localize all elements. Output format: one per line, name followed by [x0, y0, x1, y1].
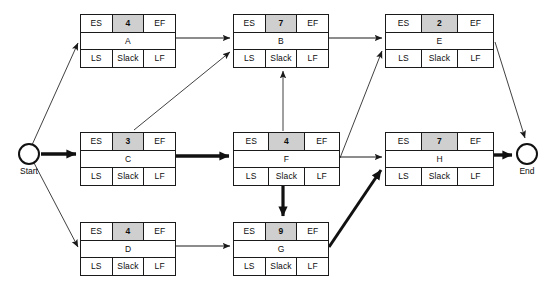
node-g-row-early: ES 9 EF: [234, 223, 328, 240]
node-h-lf: LF: [458, 168, 493, 185]
edge-f-e: [340, 51, 382, 158]
node-f-row-name: F: [234, 150, 339, 169]
node-c-duration: 3: [112, 133, 145, 150]
node-d-row-late: LS Slack LF: [81, 258, 175, 275]
node-c-ef: EF: [144, 133, 175, 150]
node-h-slack: Slack: [421, 168, 458, 185]
node-b-ls: LS: [234, 50, 265, 67]
node-d-lf: LF: [144, 258, 175, 275]
node-a-duration: 4: [112, 15, 145, 32]
node-b-name: B: [234, 33, 328, 50]
node-a-row-late: LS Slack LF: [81, 50, 175, 67]
node-d-row-name: D: [81, 240, 175, 259]
activity-node-g[interactable]: ES 9 EF G LS Slack LF: [233, 222, 329, 276]
node-g-duration: 9: [265, 223, 298, 240]
node-e-duration: 2: [421, 15, 458, 32]
node-h-row-late: LS Slack LF: [386, 168, 493, 185]
start-node[interactable]: Start: [18, 143, 40, 165]
node-g-row-late: LS Slack LF: [234, 258, 328, 275]
activity-node-b[interactable]: ES 7 EF B LS Slack LF: [233, 14, 329, 68]
node-b-slack: Slack: [265, 50, 298, 67]
end-node[interactable]: End: [516, 143, 538, 165]
node-c-row-name: C: [81, 150, 175, 169]
end-label: End: [519, 166, 534, 176]
node-b-ef: EF: [297, 15, 328, 32]
node-d-duration: 4: [112, 223, 145, 240]
node-e-lf: LF: [458, 50, 493, 67]
node-c-row-early: ES 3 EF: [81, 133, 175, 150]
node-f-row-late: LS Slack LF: [234, 168, 339, 185]
node-e-ef: EF: [458, 15, 493, 32]
node-g-ls: LS: [234, 258, 265, 275]
node-g-slack: Slack: [265, 258, 298, 275]
start-label: Start: [20, 166, 38, 176]
node-a-slack: Slack: [112, 50, 145, 67]
node-e-es: ES: [386, 15, 421, 32]
node-e-slack: Slack: [421, 50, 458, 67]
edge-e-end: [495, 42, 525, 138]
node-g-es: ES: [234, 223, 265, 240]
node-f-es: ES: [234, 133, 268, 150]
node-f-ef: EF: [305, 133, 339, 150]
node-b-row-late: LS Slack LF: [234, 50, 328, 67]
node-c-slack: Slack: [112, 168, 145, 185]
node-d-es: ES: [81, 223, 112, 240]
node-d-row-early: ES 4 EF: [81, 223, 175, 240]
node-f-row-early: ES 4 EF: [234, 133, 339, 150]
node-g-ef: EF: [297, 223, 328, 240]
node-f-slack: Slack: [268, 168, 304, 185]
node-g-row-name: G: [234, 240, 328, 259]
node-c-ls: LS: [81, 168, 112, 185]
node-e-row-name: E: [386, 32, 493, 51]
activity-node-e[interactable]: ES 2 EF E LS Slack LF: [385, 14, 494, 68]
activity-node-d[interactable]: ES 4 EF D LS Slack LF: [80, 222, 176, 276]
activity-node-h[interactable]: ES 7 EF H LS Slack LF: [385, 132, 494, 186]
node-c-lf: LF: [144, 168, 175, 185]
node-h-row-early: ES 7 EF: [386, 133, 493, 150]
node-e-row-late: LS Slack LF: [386, 50, 493, 67]
node-h-duration: 7: [421, 133, 458, 150]
node-a-lf: LF: [144, 50, 175, 67]
node-h-name: H: [386, 151, 493, 168]
node-a-ls: LS: [81, 50, 112, 67]
node-a-row-early: ES 4 EF: [81, 15, 175, 32]
activity-node-f[interactable]: ES 4 EF F LS Slack LF: [233, 132, 340, 186]
node-d-name: D: [81, 241, 175, 258]
activity-node-c[interactable]: ES 3 EF C LS Slack LF: [80, 132, 176, 186]
node-g-name: G: [234, 241, 328, 258]
node-e-ls: LS: [386, 50, 421, 67]
end-circle-icon: [516, 143, 538, 165]
activity-node-a[interactable]: ES 4 EF A LS Slack LF: [80, 14, 176, 68]
node-d-slack: Slack: [112, 258, 145, 275]
node-b-es: ES: [234, 15, 265, 32]
node-f-duration: 4: [268, 133, 304, 150]
node-b-row-early: ES 7 EF: [234, 15, 328, 32]
node-a-name: A: [81, 33, 175, 50]
node-c-name: C: [81, 151, 175, 168]
edge-start-d: [33, 161, 78, 247]
node-f-name: F: [234, 151, 339, 168]
node-h-ls: LS: [386, 168, 421, 185]
node-a-row-name: A: [81, 32, 175, 51]
edge-start-a: [32, 43, 78, 145]
node-h-es: ES: [386, 133, 421, 150]
node-b-row-name: B: [234, 32, 328, 51]
node-d-ef: EF: [144, 223, 175, 240]
node-c-es: ES: [81, 133, 112, 150]
network-diagram-canvas: Start End ES 4 EF A LS Slack LF ES 7 EF …: [0, 0, 558, 292]
node-e-row-early: ES 2 EF: [386, 15, 493, 32]
node-b-duration: 7: [265, 15, 298, 32]
node-c-row-late: LS Slack LF: [81, 168, 175, 185]
node-e-name: E: [386, 33, 493, 50]
node-g-lf: LF: [297, 258, 328, 275]
node-h-row-name: H: [386, 150, 493, 169]
node-f-lf: LF: [305, 168, 339, 185]
node-a-ef: EF: [144, 15, 175, 32]
node-b-lf: LF: [297, 50, 328, 67]
node-f-ls: LS: [234, 168, 268, 185]
start-circle-icon: [18, 143, 40, 165]
node-h-ef: EF: [458, 133, 493, 150]
node-a-es: ES: [81, 15, 112, 32]
node-d-ls: LS: [81, 258, 112, 275]
